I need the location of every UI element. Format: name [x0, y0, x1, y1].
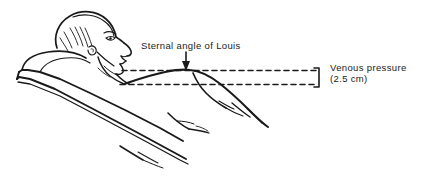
sternal-angle-label: Sternal angle of Louis — [141, 40, 241, 51]
venous-pressure-label: Venous pressure (2.5 cm) — [330, 62, 407, 84]
venous-pressure-figure: Sternal angle of Louis Venous pressure (… — [0, 0, 424, 179]
anatomy-line-drawing — [0, 0, 424, 179]
pupil — [109, 37, 111, 39]
figure-background — [0, 0, 424, 179]
venous-pressure-title: Venous pressure — [330, 62, 407, 73]
venous-pressure-value: (2.5 cm) — [330, 73, 407, 84]
